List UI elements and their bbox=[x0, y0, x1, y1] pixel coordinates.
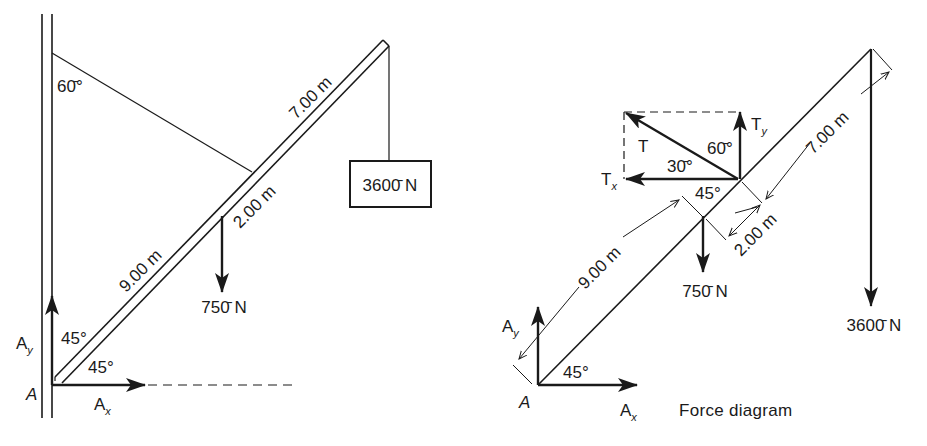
boom bbox=[55, 40, 389, 383]
load-label: 3600̄ N bbox=[363, 176, 418, 195]
reaction-y-label-right: Ay bbox=[502, 317, 520, 339]
right-panel: 9.00 m 2.00 m 7.00 m 750̄ N bbox=[502, 49, 901, 423]
statics-figure: 3600̄ N 750̄ N 60̄° 45° 45° 9.00 m 2.00 … bbox=[0, 0, 927, 446]
pivot-label: A bbox=[25, 385, 37, 404]
svg-text:7.00 m: 7.00 m bbox=[802, 108, 852, 158]
angle-boom-horizontal: 45° bbox=[88, 358, 114, 377]
reaction-x-label-right: Ax bbox=[620, 401, 637, 423]
tension-label: T bbox=[638, 137, 648, 156]
weight-label: 750̄ N bbox=[201, 298, 246, 317]
reaction-x-label: Ax bbox=[94, 395, 111, 417]
beam bbox=[538, 49, 871, 385]
reaction-y-label: Ay bbox=[16, 334, 34, 356]
figure-caption: Force diagram bbox=[679, 401, 793, 420]
cable bbox=[52, 53, 252, 172]
load-label-right: 3600̄ N bbox=[847, 316, 902, 335]
dimension-lower: 9.00 m bbox=[513, 196, 702, 384]
angle-tension-vertical: 60̄° bbox=[707, 139, 733, 158]
angle-tension-horizontal: 30̄° bbox=[667, 157, 693, 176]
tension-x-label: Tx bbox=[601, 170, 617, 192]
left-panel: 3600̄ N 750̄ N 60̄° 45° 45° 9.00 m 2.00 … bbox=[16, 14, 431, 418]
svg-text:9.00 m: 9.00 m bbox=[574, 243, 624, 293]
angle-beam-horizontal-right: 45° bbox=[563, 363, 589, 382]
angle-beam-at-tension: 45° bbox=[695, 184, 721, 203]
dimension-upper: 7.00 m bbox=[766, 49, 892, 199]
weight-label-right: 750̄ N bbox=[682, 282, 727, 301]
angle-boom-wall: 45° bbox=[61, 329, 87, 348]
tension-y-label: Ty bbox=[751, 115, 768, 137]
svg-text:2.00 m: 2.00 m bbox=[730, 210, 780, 260]
wall bbox=[42, 14, 52, 418]
pivot-label-right: A bbox=[518, 393, 530, 412]
angle-cable-wall: 60̄° bbox=[57, 77, 83, 96]
